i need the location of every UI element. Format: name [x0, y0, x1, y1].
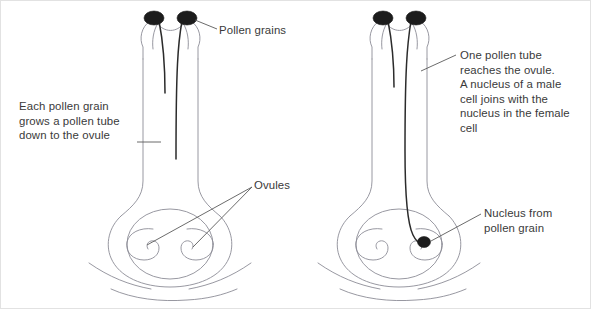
- ovule-right-1: [356, 229, 388, 260]
- stigma-left-inner: [153, 23, 158, 49]
- leader-nucleus: [431, 214, 481, 241]
- pollen-tubes-left: [159, 21, 182, 159]
- pistil-outline-right: [318, 21, 480, 301]
- label-ovules: Ovules: [254, 178, 290, 193]
- stigma-right-lobe: [191, 21, 200, 59]
- style-left-wall: [121, 59, 143, 216]
- ovary-right-outline: [337, 216, 461, 287]
- receptacle-left-c: [111, 289, 237, 301]
- ovary-chamber-left: [127, 209, 213, 279]
- pollen-grain-left-1: [144, 11, 164, 25]
- stigma-right-panel-left-inner: [382, 23, 387, 49]
- right-panel: [318, 11, 481, 301]
- pollen-grain-left-2: [177, 11, 197, 25]
- receptacle-left-b: [189, 263, 251, 289]
- style-right-wall: [198, 59, 220, 216]
- leader-ovules-a: [147, 187, 252, 245]
- left-panel: [89, 11, 252, 301]
- pollen-grain-right-1: [373, 11, 393, 25]
- label-one-pollen-tube: One pollen tube reaches the ovule. A nuc…: [460, 48, 570, 136]
- pollen-tube-left-short: [159, 21, 165, 93]
- receptacle-right-b: [418, 263, 480, 289]
- leader-one-pollen-tube: [421, 55, 456, 71]
- leader-pollen-grains: [195, 20, 217, 29]
- receptacle-left-a: [89, 263, 151, 289]
- pistil-outline-left: [89, 21, 251, 301]
- style-right-panel-left-wall: [350, 59, 372, 216]
- label-nucleus-from-pollen-grain: Nucleus from pollen grain: [484, 206, 552, 235]
- stigma-left: [141, 21, 150, 59]
- diagram-page: Pollen grains Each pollen grain grows a …: [0, 0, 591, 309]
- stigma-right-inner: [183, 23, 188, 49]
- pollen-tube-right-reaching: [405, 21, 423, 243]
- pollen-tube-left-long: [176, 21, 182, 159]
- label-pollen-grains: Pollen grains: [219, 23, 286, 38]
- ovule-left-1: [127, 229, 159, 260]
- stigma-right-panel-right-lobe: [420, 21, 429, 59]
- stigma-right-panel-left-lobe: [370, 21, 379, 59]
- pollen-grain-right-2: [406, 11, 426, 25]
- leader-ovules: [147, 187, 252, 247]
- label-each-pollen-grain: Each pollen grain grows a pollen tube do…: [19, 99, 120, 143]
- pollen-tube-right-short: [388, 21, 394, 87]
- nucleus-from-pollen-grain: [418, 237, 431, 248]
- ovule-left-2: [181, 229, 213, 260]
- receptacle-right-c: [340, 289, 466, 301]
- style-right-panel-right-wall: [427, 59, 449, 216]
- receptacle-right-a: [318, 263, 380, 289]
- stigma-right-panel-right-inner: [412, 23, 417, 49]
- pollen-tubes-right: [388, 21, 423, 243]
